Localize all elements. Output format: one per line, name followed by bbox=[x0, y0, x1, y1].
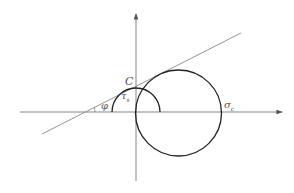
failure-envelope-line bbox=[42, 33, 241, 134]
sigma-symbol: σ bbox=[224, 99, 231, 110]
cohesion-label: C bbox=[125, 76, 133, 87]
sigma-subscript: c bbox=[231, 105, 234, 112]
shear-strength-label: τs bbox=[121, 91, 130, 103]
compressive-strength-label: σc bbox=[224, 100, 234, 112]
tau-subscript: s bbox=[127, 96, 130, 103]
friction-angle-label: φ bbox=[101, 101, 108, 111]
friction-angle-arc bbox=[94, 107, 95, 112]
compression-circle bbox=[136, 70, 222, 156]
mohr-diagram bbox=[0, 0, 294, 193]
